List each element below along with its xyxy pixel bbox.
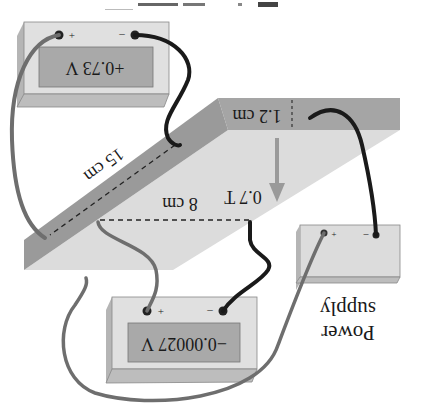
- voltmeter-top-reading: +0.73 V: [66, 58, 125, 78]
- power-supply-bottom-edge: [296, 277, 400, 283]
- hall-effect-diagram: 1.2 cm 15 cm 8 cm 0.7 T +0.73 V + – + – …: [0, 0, 421, 420]
- voltmeter-bottom-minus-label: –: [207, 306, 214, 318]
- thickness-label: 1.2 cm: [233, 106, 282, 126]
- voltmeter-top-minus-label: –: [119, 30, 126, 42]
- width-label: 8 cm: [162, 194, 198, 214]
- diagram-canvas: 1.2 cm 15 cm 8 cm 0.7 T +0.73 V + – + – …: [0, 0, 421, 420]
- voltmeter-top-plus-label: +: [69, 30, 75, 42]
- voltmeter-bottom-bottom-edge: [106, 369, 257, 383]
- caption-fragment: [105, 2, 278, 10]
- power-supply-label-line2: supply: [320, 297, 377, 321]
- power-supply-label-line1: Power: [321, 321, 375, 345]
- voltmeter-top-bottom-edge: [17, 94, 169, 107]
- voltmeter-bottom-plus-label: +: [158, 306, 164, 318]
- power-supply-minus-label: –: [363, 230, 370, 241]
- voltmeter-bottom-reading: −0.00027 V: [141, 334, 227, 354]
- power-supply-plus-label: +: [331, 230, 336, 240]
- magnetic-field-label: 0.7 T: [224, 187, 262, 207]
